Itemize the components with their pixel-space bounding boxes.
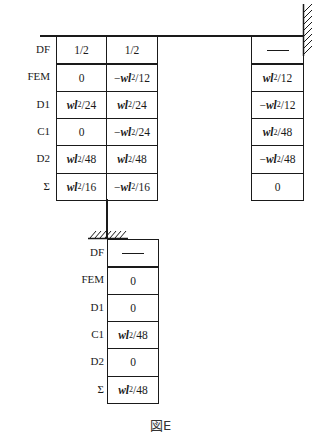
row-label: D2 [10,145,50,172]
left-joint-col-right-cell: 1/2 [106,36,158,65]
left-joint-col-right-cell: wl2/24 [106,91,158,120]
right-end-cell [251,36,304,65]
left-joint-col-right-cell: −wl2/16 [106,173,158,202]
left-joint-col-right-cell: wl2/48 [106,145,158,174]
fixed-support-right-icon [303,4,313,56]
left-joint-col-left-cell: 0 [56,63,107,92]
bottom-end-cell: 0 [107,294,159,323]
bottom-end-cell [107,239,159,268]
bottom-end-cell: wl2/48 [107,376,159,405]
row-label: D2 [64,348,104,375]
row-label: D1 [10,91,50,118]
row-label: C1 [64,321,104,348]
row-label: FEM [64,266,104,293]
left-joint-col-left-cell: 1/2 [56,36,107,65]
right-end-cell: wl2/12 [251,63,304,92]
row-label: DF [64,239,104,266]
left-joint-col-right-cell: −wl2/12 [106,63,158,92]
left-joint-col-left-cell: 0 [56,118,107,147]
left-joint-col-left-cell: wl2/48 [56,145,107,174]
row-label: C1 [10,118,50,145]
right-end-cell: −wl2/48 [251,145,304,174]
row-label: Σ [64,376,104,403]
bottom-end-cell: wl2/48 [107,321,159,350]
figure-caption: 図E [150,415,171,434]
right-end-cell: wl2/48 [251,118,304,147]
left-joint-col-left-cell: wl2/16 [56,173,107,202]
row-label: DF [10,36,50,63]
left-joint-col-left-cell: wl2/24 [56,91,107,120]
bottom-end-cell: 0 [107,348,159,377]
row-label: FEM [10,63,50,90]
row-label: Σ [10,173,50,200]
row-label: D1 [64,294,104,321]
bottom-end-cell: 0 [107,266,159,295]
right-end-cell: −wl2/12 [251,91,304,120]
left-joint-col-right-cell: −wl2/24 [106,118,158,147]
right-end-cell: 0 [251,173,304,202]
